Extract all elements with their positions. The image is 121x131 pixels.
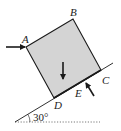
angle-label: 30° [33, 111, 48, 123]
block [26, 19, 101, 98]
angle-arc [28, 115, 30, 123]
label-d: D [53, 99, 62, 111]
force-arrow-e [86, 83, 94, 96]
label-e: E [74, 87, 82, 99]
label-a: A [21, 33, 29, 45]
label-b: B [70, 6, 77, 18]
label-c: C [102, 74, 110, 86]
incline-diagram: A B C D E 30° [0, 0, 121, 131]
